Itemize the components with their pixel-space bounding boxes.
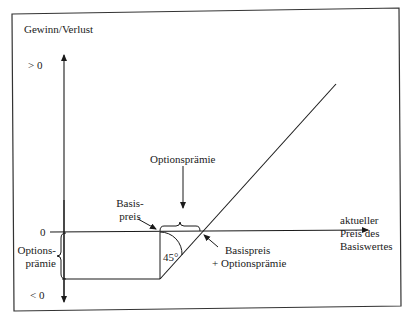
premium-top-label: Optionsprämie (150, 153, 215, 166)
strike-label: Basis- preis (110, 197, 150, 223)
premium-brace-top (160, 222, 200, 231)
y-axis-title: Gewinn/Verlust (24, 23, 93, 36)
y-negative-label: < 0 (30, 289, 44, 302)
premium-left-label: Options- prämie (14, 244, 56, 270)
breakeven-label: Basispreis + Optionsprämie (212, 244, 286, 270)
x-axis (50, 230, 368, 232)
y-zero-label: 0 (40, 226, 46, 239)
premium-brace-left (57, 233, 66, 279)
angle-label: 45° (163, 251, 178, 264)
y-positive-label: > 0 (28, 59, 42, 72)
x-axis-label: aktueller Preis des Basiswertes (340, 214, 393, 253)
